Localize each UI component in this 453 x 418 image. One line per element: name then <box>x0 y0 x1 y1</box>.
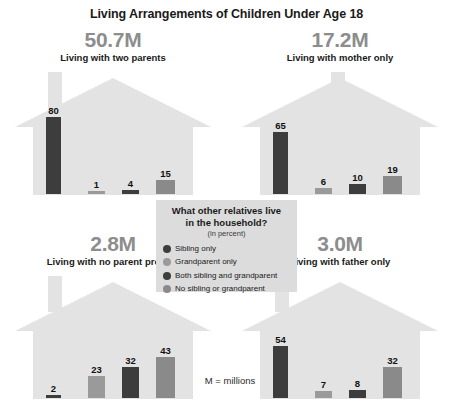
legend-box: What other relatives live in the househo… <box>156 200 297 292</box>
bar-value-label: 23 <box>91 364 102 375</box>
house-panel: 17.2MLiving with mother only6561019 <box>227 28 453 208</box>
bar-rect <box>156 180 175 194</box>
house-panel: 50.7MLiving with two parents801415 <box>0 28 226 208</box>
bar-item: 65 <box>273 120 288 194</box>
bar-value-label: 2 <box>51 383 56 394</box>
panel-amount: 50.7M <box>0 28 226 51</box>
bar-item: 10 <box>349 172 366 194</box>
legend-title: What other relatives live in the househo… <box>156 200 297 228</box>
bar-item: 19 <box>383 164 402 194</box>
bar-value-label: 80 <box>48 105 59 116</box>
bar-rect <box>383 367 402 398</box>
legend-item-label: Sibling only <box>175 244 216 254</box>
house-chart: 2233243 <box>0 276 226 412</box>
legend-title-line1: What other relatives live <box>156 205 297 217</box>
bar-series: 6561019 <box>227 72 453 208</box>
bar-value-label: 4 <box>128 178 133 189</box>
panel-caption: Living with mother only <box>227 52 453 64</box>
legend-item: Grandparent only <box>156 256 297 270</box>
bar-value-label: 65 <box>275 120 286 131</box>
bar-item: 4 <box>122 178 139 194</box>
legend-subtitle: (in percent) <box>156 229 297 239</box>
legend-item-label: Grandparent only <box>175 257 237 267</box>
bar-rect <box>88 191 105 194</box>
bar-rect <box>122 367 139 398</box>
legend-title-line2: in the household? <box>156 217 297 229</box>
legend-item: No sibling or grandparent <box>156 283 297 297</box>
bar-item: 32 <box>383 355 402 398</box>
legend-item-label: No sibling or grandparent <box>175 284 265 294</box>
bar-item: 32 <box>122 355 139 398</box>
bar-rect <box>273 132 288 194</box>
bar-rect <box>46 117 61 194</box>
bar-item: 23 <box>88 364 105 398</box>
bar-rect <box>349 184 366 194</box>
bar-series: 2233243 <box>0 276 226 412</box>
bar-value-label: 7 <box>321 379 326 390</box>
legend-swatch-dot-icon <box>163 272 171 280</box>
bar-rect <box>383 176 402 194</box>
bar-rect <box>122 190 139 194</box>
panel-header: 50.7MLiving with two parents <box>0 28 226 64</box>
bar-value-label: 1 <box>94 179 99 190</box>
house-chart: 6561019 <box>227 72 453 208</box>
bar-value-label: 8 <box>355 378 360 389</box>
legend-swatch-dot-icon <box>163 285 171 293</box>
legend-item-label: Both sibling and grandparent <box>175 271 277 281</box>
bar-item: 2 <box>46 383 61 398</box>
bar-item: 15 <box>156 168 175 194</box>
bar-value-label: 19 <box>387 164 398 175</box>
footnote: M = millions <box>170 375 290 386</box>
bar-value-label: 6 <box>321 176 326 187</box>
legend-item: Sibling only <box>156 242 297 256</box>
bar-item: 80 <box>46 105 61 194</box>
bar-item: 1 <box>88 179 105 194</box>
bar-value-label: 32 <box>387 355 398 366</box>
house-chart: 801415 <box>0 72 226 208</box>
bar-value-label: 32 <box>125 355 136 366</box>
bar-rect <box>46 395 61 398</box>
page-title: Living Arrangements of Children Under Ag… <box>0 7 453 21</box>
bar-item: 43 <box>156 345 175 398</box>
legend-swatch-dot-icon <box>163 258 171 266</box>
bar-value-label: 54 <box>275 334 286 345</box>
legend-swatch-dot-icon <box>163 245 171 253</box>
bar-rect <box>315 188 332 194</box>
bar-item: 8 <box>349 378 366 398</box>
panel-header: 17.2MLiving with mother only <box>227 28 453 64</box>
bar-rect <box>273 346 288 398</box>
bar-value-label: 15 <box>160 168 171 179</box>
panel-caption: Living with two parents <box>0 52 226 64</box>
bar-rect <box>315 391 332 398</box>
infographic-root: Living Arrangements of Children Under Ag… <box>0 0 453 418</box>
bar-item: 7 <box>315 379 332 398</box>
bar-item: 6 <box>315 176 332 194</box>
bar-item: 54 <box>273 334 288 398</box>
legend-item: Both sibling and grandparent <box>156 269 297 283</box>
house-chart: 547832 <box>227 276 453 412</box>
legend-item-list: Sibling onlyGrandparent onlyBoth sibling… <box>156 242 297 296</box>
bar-value-label: 43 <box>160 345 171 356</box>
bar-value-label: 10 <box>352 172 363 183</box>
bar-rect <box>349 390 366 398</box>
bar-series: 547832 <box>227 276 453 412</box>
bar-rect <box>88 376 105 398</box>
bar-series: 801415 <box>0 72 226 208</box>
panel-amount: 17.2M <box>227 28 453 51</box>
